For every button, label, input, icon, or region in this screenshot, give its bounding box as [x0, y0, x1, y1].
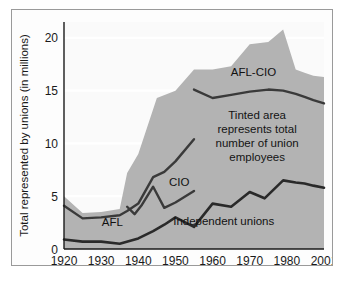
tinted-area-note-line: represents total [218, 123, 297, 135]
tinted-area-note-line: Tinted area [228, 109, 286, 121]
tinted-area-note-line: number of union [216, 137, 299, 149]
x-tick-label: 2001 [311, 254, 332, 265]
x-tick-label: 1950 [162, 254, 189, 265]
x-tick-label: 1940 [125, 254, 152, 265]
x-tick-label: 1980 [274, 254, 301, 265]
y-tick-label: 5 [51, 190, 58, 204]
afl-label: AFL [102, 216, 124, 228]
y-axis-title: Total represented by unions (in millions… [18, 34, 30, 237]
y-tick-label: 20 [45, 31, 59, 45]
afl-cio-label: AFL-CIO [231, 66, 276, 78]
y-tick-label: 15 [45, 84, 59, 98]
union-membership-area-chart: 0510152019201930194019501960197019802001… [12, 10, 332, 265]
x-tick-label: 1970 [236, 254, 263, 265]
tinted-area-note-line: employees [229, 151, 285, 163]
x-tick-label: 1920 [51, 254, 78, 265]
y-tick-label: 10 [45, 137, 59, 151]
independent-label: Independent unions [173, 215, 274, 227]
cio-label: CIO [169, 176, 190, 188]
x-tick-label: 1960 [199, 254, 226, 265]
chart-frame: 0510152019201930194019501960197019802001… [11, 9, 333, 266]
x-tick-label: 1930 [88, 254, 115, 265]
